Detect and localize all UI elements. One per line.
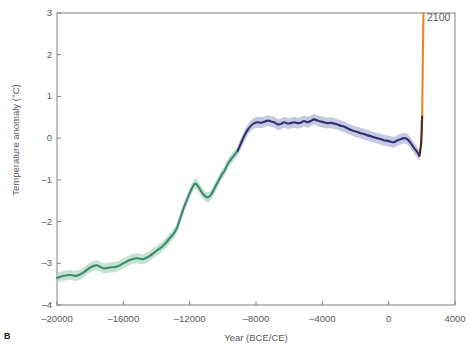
uncertainty-bands-layer	[57, 114, 419, 283]
y-tick-label: –1	[30, 174, 52, 175]
y-tick-label: 0	[30, 132, 52, 133]
x-tick-label: –8000	[221, 308, 291, 326]
series-lines-layer	[57, 13, 423, 278]
x-tick-label: 4000	[420, 308, 470, 326]
x-tick-text: 4000	[444, 313, 465, 324]
series-line	[422, 13, 423, 115]
y-tick-label: 3	[30, 7, 52, 8]
y-axis-label: Temperature anomaly (°C)	[10, 40, 21, 240]
x-tick-label: –16000	[88, 308, 158, 326]
y-tick-label: 1	[30, 90, 52, 91]
x-tick-text: –16000	[107, 313, 139, 324]
y-tick-label: –4	[30, 299, 52, 300]
x-tick-text: 0	[386, 313, 391, 324]
y-tick-label: –3	[30, 257, 52, 258]
x-tick-text: –12000	[174, 313, 206, 324]
axes-layer	[57, 13, 455, 305]
plot-frame	[57, 13, 455, 305]
y-tick-label: 2	[30, 49, 52, 50]
y-tick-text: 0	[47, 132, 52, 143]
y-tick-text: 1	[47, 90, 52, 101]
y-tick-text: –3	[41, 257, 52, 268]
y-tick-text: 3	[47, 7, 52, 18]
x-tick-text: –4000	[309, 313, 335, 324]
x-tick-label: –20000	[22, 308, 92, 326]
y-tick-text: –2	[41, 216, 52, 227]
x-tick-label: –12000	[155, 308, 225, 326]
series-line	[419, 115, 422, 155]
x-tick-text: –8000	[243, 313, 269, 324]
y-tick-label: –2	[30, 216, 52, 217]
x-tick-text: –20000	[41, 313, 73, 324]
panel-label: B	[4, 331, 11, 341]
annotation-2100: 2100	[427, 11, 450, 23]
x-tick-label: –4000	[287, 308, 357, 326]
x-axis-label: Year (BCE/CE)	[57, 332, 455, 343]
uncertainty-band	[57, 146, 238, 283]
y-tick-text: 2	[47, 49, 52, 60]
x-tick-label: 0	[354, 308, 424, 326]
y-tick-text: –1	[41, 174, 52, 185]
